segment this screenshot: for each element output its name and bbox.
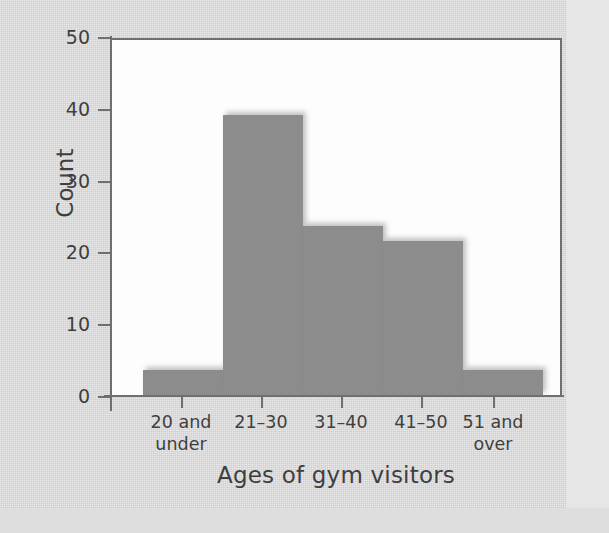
paper-margin-bottom bbox=[0, 508, 609, 533]
histogram-bar bbox=[383, 241, 463, 395]
x-axis-tick-mark bbox=[421, 397, 423, 408]
paper-margin-right bbox=[566, 0, 609, 533]
plot-frame bbox=[110, 38, 562, 397]
y-axis-tick-label: 0 bbox=[30, 387, 90, 406]
histogram-bar bbox=[143, 370, 223, 395]
x-axis-tick-mark bbox=[341, 397, 343, 408]
x-axis-tick-mark bbox=[493, 397, 495, 408]
x-axis-tick-label-line2: over bbox=[438, 433, 548, 455]
y-axis-title: Count bbox=[52, 113, 78, 253]
x-axis-tick-mark bbox=[181, 397, 183, 408]
histogram-bar bbox=[463, 370, 543, 395]
y-axis-tick-mark bbox=[98, 37, 110, 39]
y-axis-tick-mark bbox=[98, 109, 110, 111]
y-axis-tick-mark bbox=[98, 181, 110, 183]
histogram-figure: 01020304050 20 andunder21–3031–4041–5051… bbox=[0, 0, 609, 533]
y-axis-tick-mark bbox=[98, 396, 110, 398]
y-axis-tick-label: 50 bbox=[30, 28, 90, 47]
y-axis-tick-mark bbox=[98, 324, 110, 326]
x-axis-tick-label-line1: 51 and bbox=[438, 411, 548, 433]
y-axis-line bbox=[110, 36, 112, 411]
y-axis-tick-label: 10 bbox=[30, 315, 90, 334]
plot-area bbox=[112, 40, 560, 395]
x-axis-title: Ages of gym visitors bbox=[110, 462, 562, 488]
x-axis-tick-mark bbox=[261, 397, 263, 408]
histogram-bar bbox=[223, 115, 303, 395]
histogram-bar bbox=[303, 226, 383, 395]
x-axis-tick-label-line2: under bbox=[126, 433, 236, 455]
x-axis-line bbox=[104, 395, 564, 397]
y-axis-tick-mark bbox=[98, 252, 110, 254]
x-axis-tick-label: 51 andover bbox=[438, 411, 548, 456]
